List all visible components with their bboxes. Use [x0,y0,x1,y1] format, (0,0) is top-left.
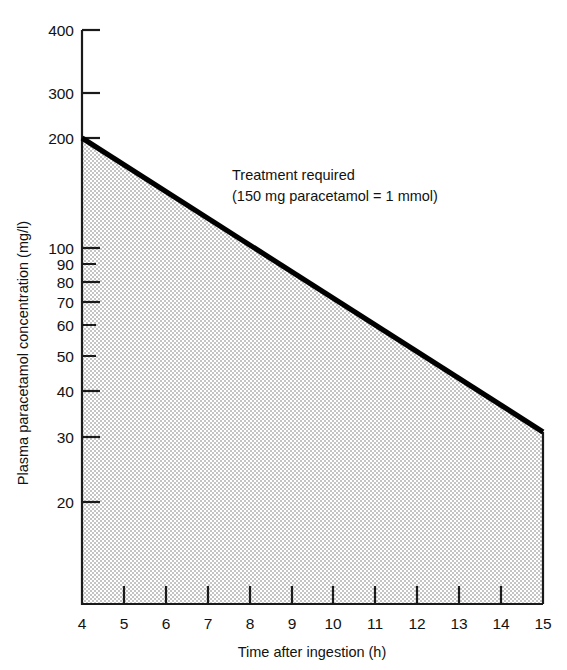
y-tick-label: 300 [48,85,74,102]
x-tick-label: 5 [120,615,129,632]
x-tick-label: 4 [78,615,87,632]
paracetamol-nomogram-chart: 400 300 200 100 90 80 70 60 50 40 30 20 [0,0,567,670]
chart-container: 400 300 200 100 90 80 70 60 50 40 30 20 [0,0,567,670]
y-tick-label: 30 [57,429,75,446]
y-tick-label: 200 [48,130,74,147]
x-tick-label: 13 [450,615,467,632]
x-tick-label: 14 [492,615,510,632]
y-tick-label: 90 [57,256,75,273]
x-tick-label: 9 [288,615,297,632]
x-tick-label: 7 [204,615,213,632]
y-tick-label: 100 [48,240,74,257]
y-tick-label: 40 [57,383,75,400]
y-tick-label: 50 [57,348,75,365]
y-axis-title: Plasma paracetamol concentration (mg/l) [15,221,31,485]
y-tick-label: 80 [57,274,75,291]
y-tick-label: 70 [57,294,75,311]
y-tick-label: 400 [48,22,74,39]
x-axis-title: Time after ingestion (h) [238,644,387,660]
x-tick-label: 11 [367,615,383,632]
y-tick-label: 20 [57,494,75,511]
x-tick-label: 10 [324,615,342,632]
x-tick-label: 12 [408,615,425,632]
x-tick-label: 8 [246,615,255,632]
x-tick-label: 6 [162,615,171,632]
annotation-line-1: Treatment required [232,167,355,183]
x-tick-label: 15 [534,615,551,632]
y-tick-label: 60 [57,317,75,334]
annotation-line-2: (150 mg paracetamol = 1 mmol) [232,188,438,204]
